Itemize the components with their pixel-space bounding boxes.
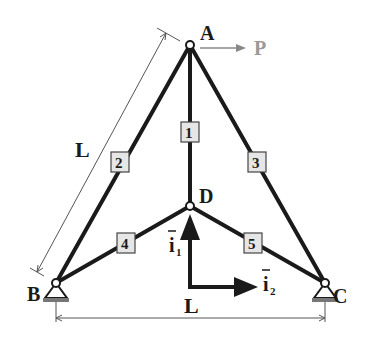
unit-vector-i1-icon	[180, 214, 200, 287]
dimension-ab	[30, 28, 180, 276]
member-2-label: 2	[115, 155, 123, 171]
svg-text:i: i	[169, 234, 175, 256]
load-label: P	[254, 37, 266, 59]
truss-diagram: L L 1 2 3 4 5	[0, 0, 366, 344]
svg-text:1: 1	[176, 246, 182, 258]
node-label-b: B	[27, 283, 40, 305]
load-arrow-icon	[200, 44, 246, 52]
dimension-label-ab: L	[75, 137, 90, 162]
joint-c	[321, 279, 329, 287]
member-5-label: 5	[248, 236, 256, 252]
member-1-label: 1	[185, 125, 193, 141]
node-label-c: C	[333, 285, 347, 307]
node-label-a: A	[200, 22, 215, 44]
joint-a	[186, 41, 194, 49]
joint-b	[52, 279, 60, 287]
svg-text:i: i	[263, 273, 269, 295]
member-4-label: 4	[121, 236, 129, 252]
dimension-label-bc: L	[184, 293, 199, 318]
unit-vector-i1-label: i 1	[168, 231, 182, 258]
unit-vector-i2-label: i 2	[262, 270, 276, 297]
svg-text:2: 2	[270, 285, 276, 297]
joint-d	[186, 202, 194, 210]
member-3-label: 3	[252, 155, 260, 171]
node-label-d: D	[199, 185, 213, 207]
